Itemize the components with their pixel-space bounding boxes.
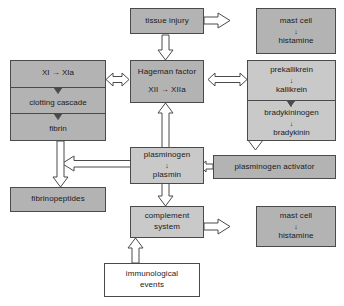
clotting-cell-xi[interactable]: XI → XIa xyxy=(11,61,105,87)
arrow-complement-to-mastcell xyxy=(204,219,230,234)
hollow-down-arrow-icon xyxy=(289,102,295,107)
clotting-cell-cascade-label: clotting cascade xyxy=(29,98,86,109)
kallikrein-cell-prekallikrein[interactable]: prekallikrein ↓ kallikrein xyxy=(248,61,335,100)
down-arrow-icon: ↓ xyxy=(294,28,298,35)
complement-system-line1: complement xyxy=(145,211,190,222)
kallikrein-cell-bradykinin[interactable]: bradykininogen ↓ bradykinin xyxy=(248,100,335,140)
clotting-cell-fibrin[interactable]: fibrin xyxy=(11,113,105,140)
down-arrow-icon: ↓ xyxy=(290,120,294,127)
arrow-plasminogen-to-hageman xyxy=(158,103,173,150)
node-mast-cell-top[interactable]: mast cell ↓ histamine xyxy=(256,8,336,54)
node-plasminogen-activator[interactable]: plasminogen activator xyxy=(213,155,336,179)
plasminogen-line1: plasminogen xyxy=(144,150,190,161)
bradykininogen-label: bradykininogen xyxy=(264,108,318,119)
arrow-tissue-to-mastcell xyxy=(204,13,230,28)
down-arrow-icon: ↓ xyxy=(165,162,169,169)
complement-system-line2: system xyxy=(154,222,180,233)
mast-cell-top-line2: histamine xyxy=(278,36,313,47)
mast-cell-top-line1: mast cell xyxy=(280,16,312,27)
diagram-canvas: tissue injury mast cell ↓ histamine Hage… xyxy=(0,0,344,306)
mast-cell-bottom-line2: histamine xyxy=(278,231,313,242)
kallikrein-label: kallikrein xyxy=(276,85,307,96)
bradykinin-label: bradykinin xyxy=(273,128,309,139)
hageman-factor-line1: Hageman factor xyxy=(138,67,196,78)
node-clotting-stack[interactable]: XI → XIa clotting cascade fibrin xyxy=(10,60,106,141)
clotting-cell-fibrin-label: fibrin xyxy=(49,124,66,135)
fibrinopeptides-label: fibrinopeptides xyxy=(31,194,85,205)
node-complement-system[interactable]: complement system xyxy=(130,206,204,238)
arrow-hageman-kallikrein xyxy=(208,73,247,86)
arrow-immunological-to-complement xyxy=(128,238,143,263)
plasminogen-line2: plasmin xyxy=(153,170,181,181)
node-mast-cell-bottom[interactable]: mast cell ↓ histamine xyxy=(256,206,336,247)
arrow-tissue-to-hageman xyxy=(158,35,173,60)
hollow-down-arrow-icon xyxy=(55,115,61,120)
prekallikrein-label: prekallikrein xyxy=(270,65,313,76)
hageman-factor-line2: XII → XIIa xyxy=(148,85,185,96)
plasminogen-activator-label: plasminogen activator xyxy=(235,162,315,173)
node-tissue-injury-label: tissue injury xyxy=(145,16,189,27)
down-arrow-icon: ↓ xyxy=(294,223,298,230)
mast-cell-bottom-line1: mast cell xyxy=(280,211,312,222)
node-kallikrein-stack[interactable]: prekallikrein ↓ kallikrein bradykininoge… xyxy=(247,60,336,141)
node-tissue-injury[interactable]: tissue injury xyxy=(130,8,204,34)
clotting-cell-xi-label: XI → XIa xyxy=(42,68,74,79)
immunological-events-line1: immunological xyxy=(126,269,178,280)
down-arrow-icon: ↓ xyxy=(290,77,294,84)
arrow-plasmin-to-complement xyxy=(158,181,173,206)
arrow-hageman-clotting xyxy=(106,73,129,86)
hollow-down-arrow-icon xyxy=(55,89,61,94)
node-fibrinopeptides[interactable]: fibrinopeptides xyxy=(10,187,106,212)
node-immunological-events[interactable]: immunological events xyxy=(104,263,200,297)
clotting-cell-cascade[interactable]: clotting cascade xyxy=(11,87,105,114)
immunological-events-line2: events xyxy=(140,280,164,291)
node-plasminogen[interactable]: plasminogen ↓ plasmin xyxy=(130,147,204,184)
node-hageman-factor[interactable]: Hageman factor XII → XIIa xyxy=(130,60,204,103)
